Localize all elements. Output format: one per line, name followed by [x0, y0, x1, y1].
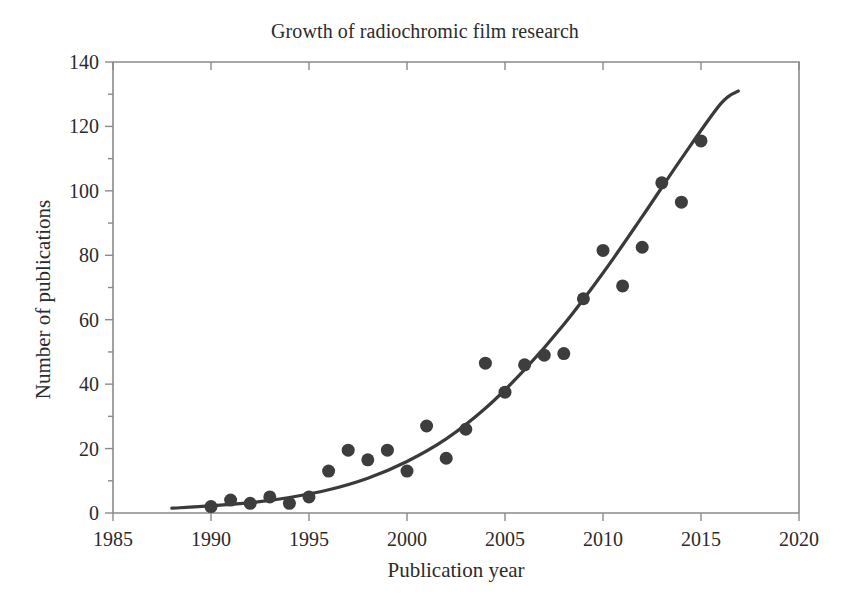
- x-tick-label: 2020: [779, 528, 819, 550]
- data-point: [420, 420, 433, 433]
- data-point: [381, 444, 394, 457]
- x-tick-label: 2010: [583, 528, 623, 550]
- y-axis-tick-labels: 020406080100120140: [69, 51, 99, 524]
- data-point: [440, 452, 453, 465]
- data-point: [303, 490, 316, 503]
- y-tick-label: 40: [79, 373, 99, 395]
- data-point: [283, 497, 296, 510]
- y-tick-label: 0: [89, 502, 99, 524]
- data-point: [695, 134, 708, 147]
- x-tick-label: 2005: [485, 528, 525, 550]
- x-tick-label: 1985: [93, 528, 133, 550]
- data-point: [322, 465, 335, 478]
- y-tick-label: 140: [69, 51, 99, 73]
- data-point: [518, 358, 531, 371]
- data-point: [636, 241, 649, 254]
- y-tick-label: 20: [79, 438, 99, 460]
- data-point: [577, 292, 590, 305]
- data-point: [499, 386, 512, 399]
- y-tick-label: 120: [69, 115, 99, 137]
- plot-area: 19851990199520002005201020152020 0204060…: [0, 0, 850, 606]
- trend-curve: [172, 91, 738, 508]
- x-tick-label: 1990: [191, 528, 231, 550]
- scatter-point-series: [205, 134, 708, 513]
- data-point: [597, 244, 610, 257]
- data-point: [538, 349, 551, 362]
- y-axis-ticks: [105, 62, 113, 513]
- x-axis-tick-labels: 19851990199520002005201020152020: [93, 528, 819, 550]
- trend-line-series: [172, 91, 738, 508]
- y-tick-label: 80: [79, 244, 99, 266]
- x-tick-label: 1995: [289, 528, 329, 550]
- x-tick-label: 2015: [681, 528, 721, 550]
- y-tick-label: 60: [79, 309, 99, 331]
- data-point: [263, 490, 276, 503]
- data-point: [675, 196, 688, 209]
- y-tick-label: 100: [69, 180, 99, 202]
- data-point: [479, 357, 492, 370]
- data-point: [205, 500, 218, 513]
- data-point: [655, 176, 668, 189]
- data-point: [557, 347, 570, 360]
- x-tick-label: 2000: [387, 528, 427, 550]
- data-point: [224, 494, 237, 507]
- x-axis-ticks: [113, 62, 799, 521]
- data-point: [401, 465, 414, 478]
- data-point: [459, 423, 472, 436]
- axis-frame: [113, 62, 799, 513]
- data-point: [361, 453, 374, 466]
- data-point: [244, 497, 257, 510]
- data-point: [616, 279, 629, 292]
- data-point: [342, 444, 355, 457]
- chart-figure: Growth of radiochromic film research Num…: [0, 0, 850, 606]
